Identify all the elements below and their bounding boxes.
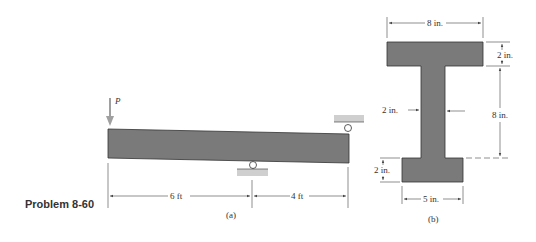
problem-label: Problem 8-60: [25, 198, 94, 210]
dimension-4ft: 4 ft: [254, 191, 346, 201]
svg-text:2 in.: 2 in.: [374, 165, 390, 175]
figure-b: 8 in. 2 in. 8 in. 2 in. 2 in.: [374, 17, 513, 224]
svg-text:5 in.: 5 in.: [423, 194, 439, 204]
figure-a: P 6 ft 4 ft (a): [106, 96, 364, 220]
dimension-bottom-flange: 2 in.: [374, 160, 390, 180]
roller-support-right: [334, 115, 364, 132]
roller-support-middle: [237, 162, 268, 177]
svg-text:2 in.: 2 in.: [497, 50, 513, 60]
diagram-canvas: P 6 ft 4 ft (a): [0, 0, 536, 242]
i-section: [387, 42, 483, 182]
dimension-bottom-width: 5 in.: [404, 194, 461, 204]
dimension-6ft: 6 ft: [110, 191, 250, 201]
svg-text:8 in.: 8 in.: [427, 18, 443, 28]
beam: [108, 129, 349, 163]
caption-b: (b): [428, 214, 439, 224]
load-arrow-icon: [106, 98, 114, 126]
svg-text:8 in.: 8 in.: [492, 110, 508, 120]
svg-text:4 ft: 4 ft: [291, 191, 304, 201]
load-label: P: [114, 96, 121, 106]
dimension-web-height: 8 in.: [492, 68, 508, 156]
caption-a: (a): [226, 210, 236, 220]
svg-text:2 in.: 2 in.: [382, 105, 398, 115]
dimension-top-width: 8 in.: [389, 18, 481, 28]
dimension-top-flange: 2 in.: [497, 44, 513, 64]
svg-text:6 ft: 6 ft: [170, 191, 183, 201]
